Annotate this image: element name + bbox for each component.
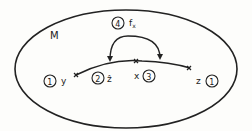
tag-4-label: 4	[115, 20, 120, 29]
point-zhat-label: ẑ	[107, 74, 112, 84]
set-m-ellipse	[15, 10, 237, 128]
path-curve	[76, 61, 190, 75]
tag-2-label: 2	[95, 75, 100, 84]
tag-3-label: 3	[146, 73, 151, 82]
set-m-label: M	[50, 30, 59, 41]
point-y-label: y	[61, 76, 67, 86]
map-arc	[110, 36, 160, 60]
point-x-label: x	[134, 71, 140, 81]
tag-1-y-label: 1	[47, 78, 52, 87]
arrow-head-left	[107, 56, 113, 62]
diagram-canvas: M 4 fx 1 y 2 ẑ x 3 z 1	[0, 0, 252, 131]
point-z-label: z	[196, 76, 201, 86]
arrow-head-right	[157, 54, 163, 60]
tag-1-z-label: 1	[209, 78, 214, 87]
map-label: fx	[129, 18, 136, 29]
